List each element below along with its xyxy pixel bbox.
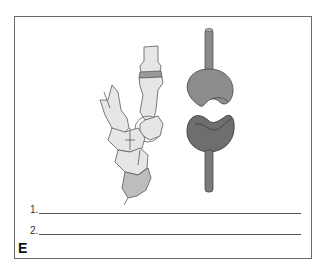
answer-line-1-number: 1. (30, 205, 38, 215)
answer-line-1-blank[interactable] (39, 213, 301, 214)
answer-line-2-blank[interactable] (39, 234, 301, 235)
saddle-joint-model-icon (187, 29, 234, 193)
panel-letter: E (18, 240, 27, 256)
answer-line-2-number: 2. (30, 226, 38, 236)
answer-line-2[interactable]: 2. (30, 226, 301, 236)
answer-line-1[interactable]: 1. (30, 205, 301, 215)
hand-bones-icon (100, 46, 163, 205)
